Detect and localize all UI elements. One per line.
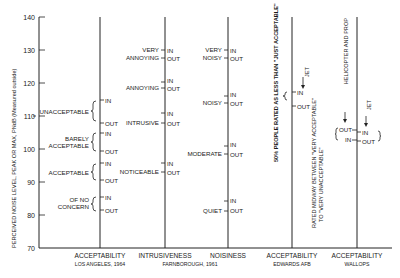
column-noisiness: IN OUT VERY NOISY IN OUT NOISY IN OUT MO… [187,17,243,248]
label-out: OUT [105,177,118,184]
noise-acceptability-chart: 140 130 120 110 100 90 80 70 PERCEIVED N… [0,0,400,278]
label-in: IN [105,160,111,167]
level-barely-acceptable-2: ACCEPTABLE [49,142,89,149]
category-intrusiveness: INTRUSIVENESS [138,252,192,259]
label-out: OUT [339,126,352,133]
level-annoying: ANNOYING [126,84,159,91]
label-in: IN [230,141,236,148]
label-in: IN [362,129,368,136]
label-in: IN [167,160,173,167]
column-edwards-afb: 50% PEOPLE RATED AS LESS THAN "JUST ACCE… [273,3,310,248]
label-out: OUT [105,207,118,214]
y-tick-100: 100 [23,146,35,153]
label-in: IN [230,91,236,98]
label-out: OUT [105,148,118,155]
edwards-annotation: 50% PEOPLE RATED AS LESS THAN "JUST ACCE… [273,3,279,162]
level-of-no-concern-2: CONCERN [58,203,89,210]
label-in: IN [105,194,111,201]
level-very-noisy-1: VERY [205,46,222,53]
helicopter-prop-label: HELICOPTER AND PROP [343,18,349,84]
level-unacceptable: UNACCEPTABLE [40,108,89,115]
column-intrusiveness: IN OUT VERY ANNOYING IN OUT ANNOYING IN … [120,17,180,248]
level-quiet: QUIET [203,207,222,214]
label-in: IN [230,47,236,54]
level-very-annoying-1: VERY [142,46,159,53]
y-tick-80: 80 [27,212,35,219]
study-edwards-afb: EDWARDS AFB [273,261,311,267]
label-in: IN [230,197,236,204]
level-of-no-concern-1: OF NO [69,196,89,203]
label-in: IN [105,97,111,104]
y-tick-120: 120 [23,80,35,87]
level-noticeable: NOTICEABLE [120,168,159,175]
label-out: OUT [230,100,243,107]
label-in: IN [105,130,111,137]
label-in: IN [297,89,303,96]
label-in: IN [167,47,173,54]
label-out: OUT [167,120,180,127]
level-intrusive: INTRUSIVE [126,119,159,126]
label-out: OUT [167,169,180,176]
level-barely-acceptable-1: BARELY [65,135,89,142]
level-moderate: MODERATE [187,150,222,157]
category-edwards-acceptability: ACCEPTABILITY [267,252,318,259]
label-in: IN [345,136,351,143]
arrowhead-icon [364,123,368,127]
study-farnborough-1961: FARNBOROUGH, 1961 [162,261,217,267]
category-noisiness: NOISINESS [210,252,247,259]
y-axis-label: PERCEIVED NOISE LEVEL, PEAK OR MAX, PNdB… [11,68,17,248]
study-wallops: WALLOPS [345,261,370,267]
y-tick-130: 130 [23,47,35,54]
level-noisy: NOISY [203,99,222,106]
label-out: OUT [167,85,180,92]
study-la-1964: LOS ANGELES, 1964 [75,261,126,267]
label-out: OUT [230,207,243,214]
column-la-acceptability: IN OUT UNACCEPTABLE IN OUT BARELY ACCEPT… [33,17,118,248]
y-tick-90: 90 [27,179,35,186]
label-out: OUT [297,103,310,110]
column-wallops: HELICOPTER AND PROP OUT IN JET IN OUT [335,17,381,248]
jet-label: JET [366,99,372,110]
category-la-acceptability: ACCEPTABILITY [75,252,126,259]
x-axis-labels: ACCEPTABILITY LOS ANGELES, 1964 INTRUSIV… [75,252,383,267]
label-in: IN [167,110,173,117]
label-out: OUT [230,55,243,62]
y-axis: 140 130 120 110 100 90 80 70 PERCEIVED N… [11,14,392,252]
wallops-annotation-1: RATED MIDWAY BETWEEN "VERY ACCEPTABLE" [311,98,317,228]
label-in: IN [167,77,173,84]
category-wallops-acceptability: ACCEPTABILITY [332,252,383,259]
label-out: OUT [230,151,243,158]
label-out: OUT [362,138,375,145]
label-out: OUT [167,55,180,62]
wallops-annotation-2: TO "VERY UNACCEPTABLE" [318,148,324,222]
arrowhead-icon [343,119,347,123]
y-tick-140: 140 [23,14,35,21]
level-acceptable: ACCEPTABLE [49,169,89,176]
level-very-annoying-2: ANNOYING [126,54,159,61]
jet-label: JET [304,66,310,77]
y-tick-70: 70 [27,245,35,252]
level-very-noisy-2: NOISY [203,54,222,61]
label-out: OUT [105,120,118,127]
